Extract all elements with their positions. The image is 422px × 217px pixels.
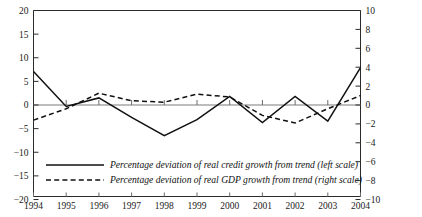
legend-label-2: Percentage deviation of real GDP growth … <box>109 174 362 186</box>
x-tick-label: 1999 <box>188 201 207 211</box>
right-tick-label: −4 <box>366 138 376 148</box>
left-tick-label: −10 <box>14 148 29 158</box>
right-tick-label: 2 <box>366 82 371 92</box>
right-tick-label: 10 <box>366 6 376 16</box>
x-tick-label: 1994 <box>24 201 43 211</box>
x-axis-ticks: 1994199519961997199819992000200120022003… <box>24 100 370 211</box>
left-tick-label: −15 <box>14 171 29 181</box>
x-tick-label: 2004 <box>351 201 370 211</box>
x-tick-label: 2003 <box>318 201 337 211</box>
right-tick-label: 6 <box>366 44 371 54</box>
left-tick-label: −5 <box>18 124 28 134</box>
right-tick-label: 0 <box>366 100 371 110</box>
x-tick-label: 2000 <box>220 201 239 211</box>
line-chart: 20151050−5−10−15−20 1086420−2−4−6−8−10 1… <box>0 0 422 217</box>
legend-label-1: Percentage deviation of real credit grow… <box>109 159 358 171</box>
left-tick-label: 10 <box>19 53 29 63</box>
x-tick-label: 1998 <box>155 201 174 211</box>
left-tick-label: 5 <box>24 77 29 87</box>
right-tick-label: −2 <box>366 119 376 129</box>
chart-container: 20151050−5−10−15−20 1086420−2−4−6−8−10 1… <box>0 0 422 217</box>
left-tick-label: 15 <box>19 30 29 40</box>
right-tick-label: 4 <box>366 63 371 73</box>
x-tick-label: 2001 <box>253 201 272 211</box>
x-tick-label: 1995 <box>57 201 76 211</box>
right-tick-label: 8 <box>366 25 371 35</box>
left-axis-ticks: 20151050−5−10−15−20 <box>14 6 39 205</box>
left-tick-label: 20 <box>19 6 29 16</box>
chart-legend: Percentage deviation of real credit grow… <box>46 159 362 186</box>
x-tick-label: 2002 <box>286 201 305 211</box>
right-tick-label: −8 <box>366 176 376 186</box>
left-tick-label: 0 <box>24 100 29 110</box>
right-tick-label: −6 <box>366 157 376 167</box>
x-tick-label: 1997 <box>122 201 141 211</box>
x-tick-label: 1996 <box>89 201 108 211</box>
